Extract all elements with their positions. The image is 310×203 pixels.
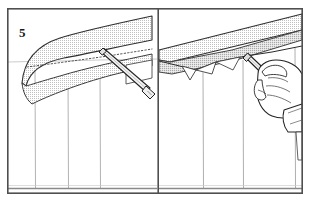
- panel-right: [158, 8, 303, 194]
- figure-root: 5: [0, 0, 310, 203]
- panel-left: 5: [7, 8, 159, 194]
- step-number-badge: 5: [19, 25, 26, 40]
- figure-svg: 5: [0, 0, 310, 203]
